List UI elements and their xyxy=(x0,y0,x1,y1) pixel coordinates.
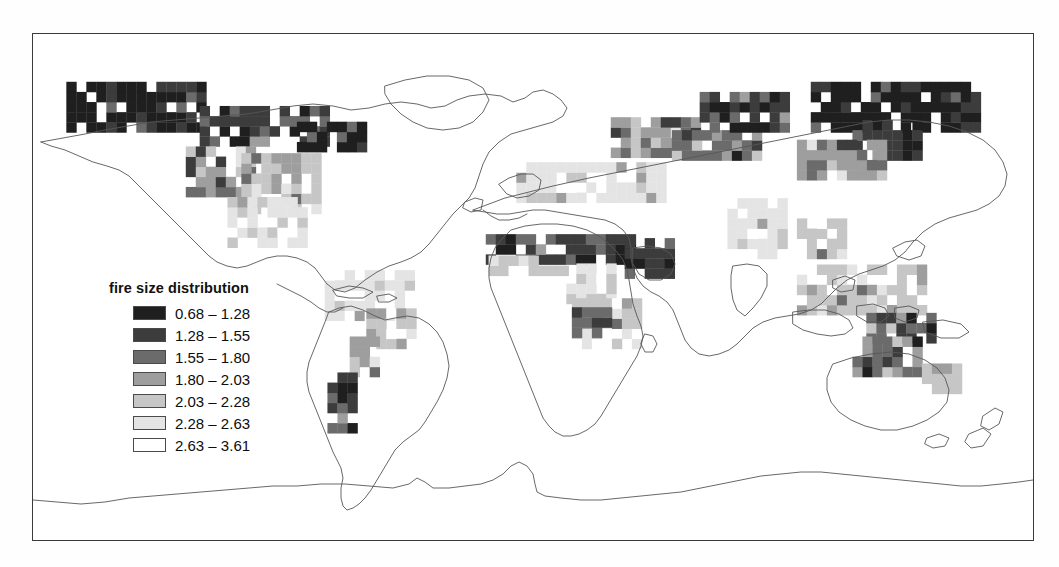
map-grid-cell xyxy=(646,172,656,182)
map-grid-cell xyxy=(386,308,396,318)
map-grid-cell xyxy=(311,194,321,204)
map-grid-cell xyxy=(817,249,827,259)
map-grid-cell xyxy=(891,92,901,102)
map-grid-cell xyxy=(576,244,586,254)
map-grid-cell xyxy=(757,239,767,249)
map-grid-cell xyxy=(606,263,616,273)
map-grid-cell xyxy=(780,102,790,112)
map-grid-cell xyxy=(347,423,357,433)
map-grid-cell xyxy=(867,160,877,170)
map-grid-cell xyxy=(611,117,621,127)
map-grid-cell xyxy=(345,300,355,310)
map-grid-cell xyxy=(757,249,767,259)
map-grid-cell xyxy=(852,130,862,140)
map-grid-cell xyxy=(631,148,641,158)
map-grid-cell xyxy=(216,177,226,187)
map-grid-cell xyxy=(737,229,747,239)
map-grid-cell xyxy=(250,126,260,136)
map-grid-cell xyxy=(622,329,632,339)
legend-class-label: 0.68 – 1.28 xyxy=(175,305,250,322)
map-grid-cell xyxy=(186,187,196,197)
map-grid-cell xyxy=(347,403,357,413)
map-grid-cell xyxy=(370,367,380,377)
map-grid-cell xyxy=(922,374,932,384)
map-grid-cell xyxy=(106,122,116,132)
map-grid-cell xyxy=(556,162,566,172)
map-grid-cell xyxy=(307,122,317,132)
map-grid-cell xyxy=(921,102,931,112)
map-grid-cell xyxy=(271,173,281,183)
map-grid-cell xyxy=(220,126,230,136)
map-grid-cell xyxy=(861,102,871,112)
map-grid-cell xyxy=(906,313,916,323)
map-grid-cell xyxy=(847,265,857,275)
map-grid-cell xyxy=(877,285,887,295)
map-grid-cell xyxy=(631,137,641,147)
legend-color-swatch xyxy=(133,394,166,408)
map-grid-cell xyxy=(499,266,509,276)
map-grid-cell xyxy=(817,295,827,305)
map-grid-cell xyxy=(395,280,405,290)
map-grid-cell xyxy=(592,327,602,337)
map-grid-cell xyxy=(596,172,606,182)
map-grid-cell xyxy=(106,102,116,112)
legend-class-label: 1.55 – 1.80 xyxy=(175,349,250,366)
map-grid-cell xyxy=(821,82,831,92)
map-grid-cell xyxy=(311,163,321,173)
map-grid-cell xyxy=(206,177,216,187)
map-grid-cell xyxy=(710,102,720,112)
map-grid-cell xyxy=(360,357,370,367)
map-grid-cell xyxy=(777,239,787,249)
map-grid-cell xyxy=(592,317,602,327)
map-grid-cell xyxy=(176,82,186,92)
map-grid-cell xyxy=(692,130,702,140)
map-grid-cell xyxy=(952,374,962,384)
map-grid-cell xyxy=(641,127,651,137)
map-grid-cell xyxy=(942,374,952,384)
map-grid-cell xyxy=(546,193,556,203)
map-grid-cell xyxy=(576,162,586,172)
map-grid-cell xyxy=(345,270,355,280)
map-grid-cell xyxy=(347,132,357,142)
map-grid-cell xyxy=(621,137,631,147)
map-grid-cell xyxy=(186,92,196,102)
map-grid-cell xyxy=(672,140,682,150)
map-grid-cell xyxy=(526,234,536,244)
map-grid-cell xyxy=(186,167,196,177)
legend-color-swatch xyxy=(133,350,166,364)
map-grid-cell xyxy=(757,208,767,218)
map-grid-cell xyxy=(260,136,270,146)
map-grid-cell xyxy=(636,182,646,192)
map-grid-cell xyxy=(576,274,586,284)
map-grid-cell xyxy=(116,82,126,92)
map-grid-cell xyxy=(240,136,250,146)
map-grid-cell xyxy=(636,193,646,203)
map-grid-cell xyxy=(727,198,737,208)
map-grid-cell xyxy=(327,383,337,393)
map-grid-cell xyxy=(700,92,710,102)
map-grid-cell xyxy=(827,150,837,160)
map-grid-cell xyxy=(345,311,355,321)
map-grid-cell xyxy=(857,170,867,180)
map-grid-cell xyxy=(582,329,592,339)
map-grid-cell xyxy=(291,153,301,163)
map-grid-cell xyxy=(882,357,892,367)
map-grid-cell xyxy=(911,92,921,102)
map-grid-cell xyxy=(635,248,645,258)
map-grid-cell xyxy=(86,82,96,92)
map-grid-cell xyxy=(337,372,347,382)
map-grid-cell xyxy=(612,318,622,328)
map-grid-cell xyxy=(136,92,146,102)
map-grid-cell xyxy=(892,336,902,346)
map-grid-cell xyxy=(347,372,357,382)
map-grid-cell xyxy=(797,150,807,160)
map-grid-cell xyxy=(327,393,337,403)
map-grid-cell xyxy=(971,112,981,122)
map-grid-cell xyxy=(862,357,872,367)
map-grid-cell xyxy=(691,117,701,127)
map-grid-cell xyxy=(556,234,566,244)
map-grid-cell xyxy=(206,187,216,197)
map-grid-cell xyxy=(767,218,777,228)
map-grid-cell xyxy=(732,150,742,160)
legend-class-label: 2.63 – 3.61 xyxy=(175,437,250,454)
